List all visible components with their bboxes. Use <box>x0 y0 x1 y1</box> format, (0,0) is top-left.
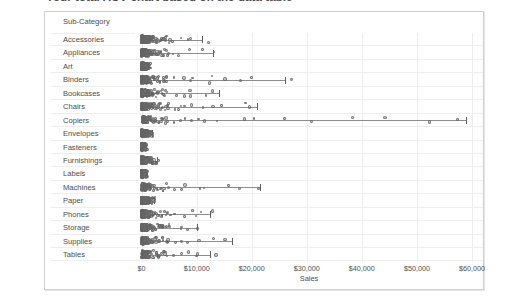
category-label: Chairs <box>45 100 135 113</box>
data-point <box>159 210 163 214</box>
category-label: Appliances <box>45 46 135 59</box>
data-point <box>177 54 180 57</box>
data-point <box>153 119 156 122</box>
data-point <box>174 108 177 111</box>
data-point <box>155 96 157 98</box>
data-point <box>150 82 152 84</box>
data-point <box>212 237 215 240</box>
data-point <box>253 117 256 120</box>
data-point <box>160 215 163 218</box>
data-point <box>186 241 189 244</box>
data-point <box>189 94 192 97</box>
data-point <box>197 118 199 120</box>
data-point <box>182 76 186 80</box>
data-point <box>153 257 155 259</box>
data-point <box>383 116 387 120</box>
data-point <box>211 75 213 77</box>
data-point <box>214 253 218 257</box>
data-point <box>168 42 170 44</box>
data-point <box>197 239 200 242</box>
data-point <box>156 214 159 217</box>
data-point <box>196 227 199 230</box>
data-point <box>189 37 192 40</box>
x-axis-tick: $10,000 <box>184 264 210 273</box>
data-point <box>283 117 286 120</box>
whisker-endcap <box>285 77 286 84</box>
data-point <box>207 41 210 44</box>
data-point <box>171 40 174 43</box>
data-point <box>152 184 155 187</box>
data-point <box>144 62 147 65</box>
data-point <box>456 118 459 121</box>
data-point <box>203 119 207 123</box>
category-label: Copiers <box>45 114 135 127</box>
data-point <box>180 226 183 229</box>
data-point <box>188 89 191 92</box>
data-point <box>166 54 169 57</box>
data-point <box>216 120 218 122</box>
data-point <box>179 119 182 122</box>
category-label: Tables <box>45 248 135 261</box>
data-point <box>257 187 260 190</box>
plot-row <box>135 73 483 86</box>
plot-row <box>135 114 483 127</box>
whisker-endcap <box>232 238 233 245</box>
data-point <box>151 94 154 97</box>
data-point <box>166 238 169 241</box>
data-point <box>159 108 162 111</box>
data-point <box>169 214 172 217</box>
data-point <box>183 94 186 97</box>
data-point <box>173 188 176 191</box>
data-point <box>175 94 178 97</box>
data-point <box>174 241 177 244</box>
data-point <box>167 102 169 104</box>
data-point <box>177 108 179 110</box>
category-label: Machines <box>45 181 135 194</box>
plot-row <box>135 127 483 140</box>
plot-row <box>135 167 483 180</box>
data-point <box>165 80 168 83</box>
data-point <box>154 228 157 231</box>
data-point <box>180 37 182 39</box>
data-point <box>211 105 214 108</box>
data-point <box>223 238 226 241</box>
data-point <box>167 105 169 107</box>
data-point <box>168 225 171 228</box>
data-point <box>238 187 241 190</box>
plot-row <box>135 181 483 194</box>
data-point <box>172 53 174 55</box>
data-point <box>202 106 205 109</box>
data-point <box>223 77 227 81</box>
data-point <box>200 211 202 213</box>
data-point <box>199 187 201 189</box>
data-point <box>166 255 168 257</box>
data-point <box>290 78 293 81</box>
data-point <box>189 79 192 82</box>
plot-area <box>135 33 483 262</box>
data-point <box>167 186 170 189</box>
data-point <box>220 104 223 107</box>
category-label: Labels <box>45 167 135 180</box>
data-point <box>250 76 253 79</box>
data-point <box>159 120 162 123</box>
data-point <box>227 184 230 187</box>
data-point <box>166 241 169 244</box>
data-point <box>143 173 146 176</box>
data-point <box>147 216 150 219</box>
data-point <box>162 54 165 57</box>
data-point <box>180 228 182 230</box>
data-point <box>351 116 354 119</box>
plot-row <box>135 221 483 234</box>
plot-row <box>135 154 483 167</box>
plot-row <box>135 46 483 59</box>
category-label: Envelopes <box>45 127 135 140</box>
category-label: Fasteners <box>45 141 135 154</box>
data-point <box>190 119 193 122</box>
x-axis-title: Sales <box>135 274 483 283</box>
data-point <box>208 81 212 85</box>
page-title-strip: Your total ACV chart based on the data t… <box>0 0 509 7</box>
chart-screenshot: Your total ACV chart based on the data t… <box>0 0 509 306</box>
data-point <box>211 209 214 212</box>
data-point <box>162 93 165 96</box>
x-axis-tick: $40,000 <box>349 264 375 273</box>
